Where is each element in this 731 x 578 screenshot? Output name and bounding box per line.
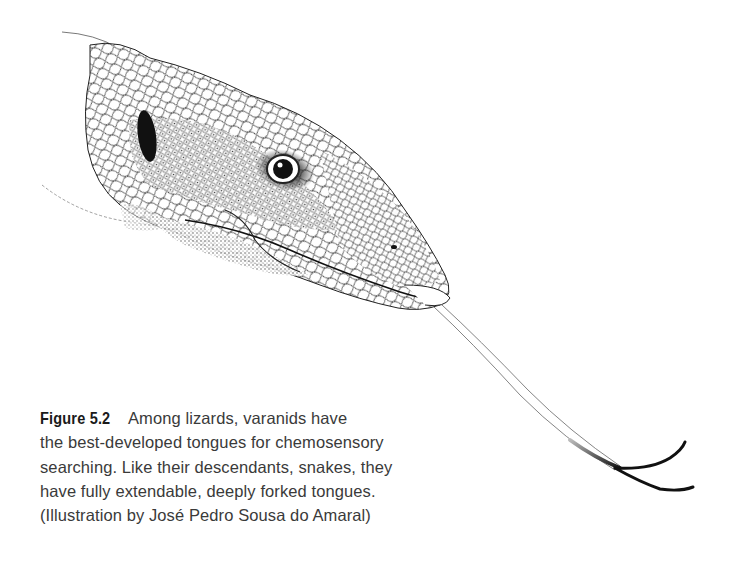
figure-label: Figure 5.2 — [40, 406, 110, 430]
caption-line-2: the best-developed tongues for chemosens… — [40, 430, 460, 454]
eye-highlight — [278, 163, 283, 168]
caption-line-4: have fully extendable, deeply forked ton… — [40, 479, 460, 503]
nostril — [391, 245, 397, 249]
figure-caption: Figure 5.2Among lizards, varanids have t… — [40, 406, 460, 527]
caption-line-3: searching. Like their descendants, snake… — [40, 455, 460, 479]
tongue — [434, 307, 615, 470]
caption-line-5: (Illustration by José Pedro Sousa do Ama… — [40, 503, 460, 527]
caption-text: Among lizards, varanids have — [128, 409, 347, 427]
caption-line-1: Figure 5.2Among lizards, varanids have — [40, 406, 460, 430]
tongue-base-darkening — [570, 440, 620, 468]
tongue-fork-upper — [615, 442, 685, 468]
eye-iris — [273, 159, 293, 179]
tongue-edge — [442, 305, 620, 466]
tongue-fork-lower — [615, 468, 693, 490]
